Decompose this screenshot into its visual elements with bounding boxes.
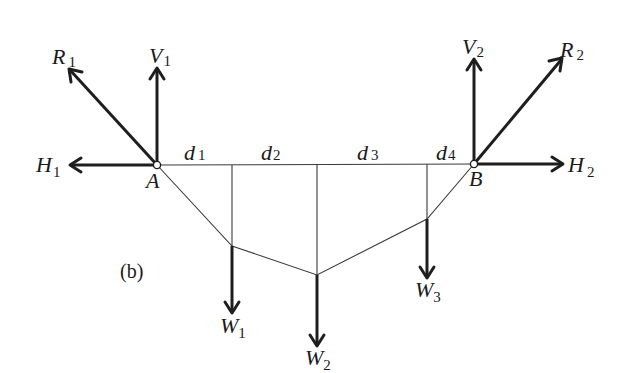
reaction-r1-arrow (69, 69, 157, 165)
reaction-h2-arrow (474, 157, 563, 171)
figure-caption: (b) (120, 260, 143, 283)
label-d2: d2 (261, 140, 281, 165)
load-w1-arrow (225, 246, 239, 313)
label-v1: V1 (149, 43, 171, 69)
label-h1: H1 (35, 152, 60, 180)
reaction-h1-arrow (70, 158, 157, 172)
load-w2-arrow (310, 275, 324, 346)
label-a: A (144, 168, 160, 193)
cable-diagram: R1 V1 H1 A V2 R2 H2 B d1 d2 d3 d4 W1 W2 … (0, 0, 627, 373)
label-h2: H2 (567, 152, 594, 180)
reaction-v2-arrow (467, 59, 481, 164)
label-d1: d1 (184, 140, 206, 165)
label-d3: d3 (357, 140, 379, 165)
label-d4: d4 (436, 140, 456, 165)
label-w1: W1 (220, 313, 246, 341)
reaction-v1-arrow (150, 68, 164, 165)
load-w3-arrow (420, 219, 434, 278)
label-v2: V2 (462, 34, 484, 60)
label-r1: R1 (51, 44, 76, 70)
label-w3: W3 (415, 277, 441, 305)
label-w2: W2 (305, 345, 331, 373)
reaction-r2-arrow (474, 58, 562, 164)
label-r2: R2 (559, 37, 584, 63)
diagram-canvas: R1 V1 H1 A V2 R2 H2 B d1 d2 d3 d4 W1 W2 … (0, 0, 627, 373)
label-b: B (469, 166, 482, 191)
